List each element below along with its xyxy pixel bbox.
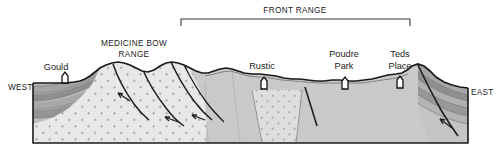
- town-label-poudre-park-line1: Poudre: [329, 49, 359, 59]
- medicine-bow-range-label: MEDICINE BOW RANGE: [101, 39, 167, 59]
- direction-label-east: EAST: [471, 88, 494, 97]
- town-label-rustic: Rustic: [249, 61, 275, 71]
- front-range-bracket-line: [181, 19, 410, 26]
- town-marker-poudre-park[interactable]: [342, 77, 348, 89]
- town-marker-rustic[interactable]: [261, 77, 267, 89]
- front-range-label: FRONT RANGE: [263, 6, 326, 15]
- geologic-cross-section-figure: FRONT RANGE MEDICINE BOW RANGE Gould Rus…: [0, 0, 499, 155]
- town-marker-gould[interactable]: [62, 72, 68, 83]
- town-label-poudre-park-line2: Park: [335, 61, 354, 71]
- front-range-bracket: FRONT RANGE: [181, 6, 410, 26]
- medicine-bow-range-line2: RANGE: [119, 50, 150, 59]
- medicine-bow-range-line1: MEDICINE BOW: [101, 39, 167, 48]
- town-marker-teds-place[interactable]: [397, 76, 403, 88]
- direction-label-west: WEST: [8, 83, 33, 92]
- town-label-teds-place-line1: Teds: [390, 49, 410, 59]
- town-label-gould: Gould: [44, 62, 69, 72]
